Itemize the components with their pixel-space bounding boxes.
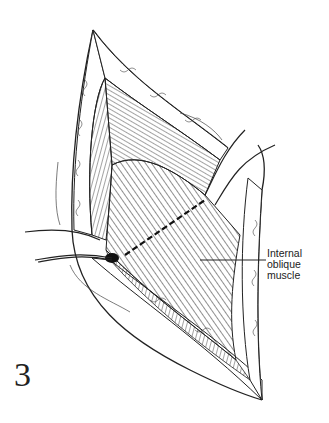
label-internal-oblique-muscle: Internal oblique muscle: [267, 248, 302, 281]
surgical-illustration: [0, 0, 329, 423]
figure-number: 3: [14, 358, 31, 392]
label-line: muscle: [267, 270, 302, 281]
